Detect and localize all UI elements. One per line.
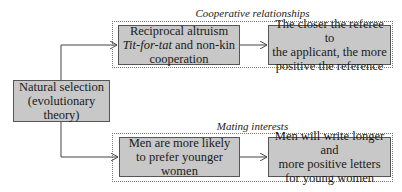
node-line2: more positive letters [269,157,390,171]
node-line1: Men will write longer and [269,129,390,157]
node-line3: positive the reference [269,59,390,73]
root-line2: (evolutionary theory) [14,94,109,122]
root-line1: Natural selection [14,80,109,94]
node-line2: to prefer younger women [120,150,239,178]
node-line2: Tit-for-tat and non-kin [123,38,235,52]
node-men-write-longer: Men will write longer and more positive … [268,137,391,177]
node-men-prefer-younger: Men are more likely to prefer younger wo… [119,137,240,177]
node-line1: Reciprocal altruism [123,24,235,38]
node-line1: The closer the referee to [269,17,390,45]
node-closer-referee: The closer the referee to the applicant,… [268,25,391,65]
node-line1: Men are more likely [120,136,239,150]
root-node-natural-selection: Natural selection (evolutionary theory) [13,80,110,122]
node-line3: cooperation [123,52,235,66]
node-line2: the applicant, the more [269,45,390,59]
node-line3: for young women [269,171,390,185]
node-line2-rest: and non-kin [172,38,235,52]
node-reciprocal-altruism: Reciprocal altruism Tit-for-tat and non-… [118,25,240,65]
node-line2-italic: Tit-for-tat [123,38,172,52]
